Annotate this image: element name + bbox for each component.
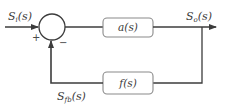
feedback-signal-label: Sfb(s)	[57, 90, 86, 104]
plus-sign: +	[32, 32, 40, 43]
feedback-block-label: f(s)	[118, 77, 136, 89]
input-signal-label: Si(s)	[8, 10, 32, 24]
output-signal-label: So(s)	[186, 10, 212, 24]
feedback-branch-line	[153, 27, 202, 83]
feedback-block-diagram: Si(s) + − a(s) So(s) f(s) Sfb(s)	[0, 0, 230, 106]
minus-sign: −	[59, 37, 67, 48]
forward-block-label: a(s)	[118, 21, 138, 33]
